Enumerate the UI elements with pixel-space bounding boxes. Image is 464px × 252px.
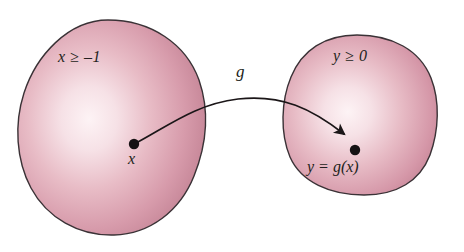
domain-condition-label: x ≥ –1	[58, 48, 101, 66]
domain-set-shape	[18, 20, 206, 235]
function-mapping-diagram: x ≥ –1 y ≥ 0 g x y = g(x)	[0, 0, 464, 252]
source-point	[129, 139, 139, 149]
image-point-label: y = g(x)	[307, 158, 359, 176]
source-point-label: x	[128, 150, 135, 168]
image-point	[350, 145, 360, 155]
function-name-label: g	[236, 62, 245, 82]
range-condition-label: y ≥ 0	[333, 47, 367, 65]
